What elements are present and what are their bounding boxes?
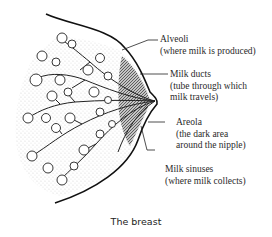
label-milk-ducts-desc: (tube through which: [170, 81, 247, 93]
label-areola: Areola (the dark area around the nipple): [176, 117, 246, 152]
label-areola-desc: (the dark area: [176, 129, 246, 141]
label-milk-ducts: Milk ducts (tube through which milk trav…: [170, 69, 247, 104]
label-areola-title: Areola: [176, 117, 246, 129]
label-milk-ducts-desc2: milk travels): [170, 92, 247, 104]
label-alveoli-title: Alveoli: [160, 34, 256, 46]
figure-caption: The breast: [0, 216, 272, 227]
label-milk-sinuses-desc: (where milk collects): [165, 176, 246, 188]
label-alveoli-desc: (where milk is produced): [160, 46, 256, 58]
label-milk-sinuses: Milk sinuses (where milk collects): [165, 164, 246, 187]
label-areola-desc2: around the nipple): [176, 140, 246, 152]
label-milk-sinuses-title: Milk sinuses: [165, 164, 246, 176]
label-alveoli: Alveoli (where milk is produced): [160, 34, 256, 57]
label-milk-ducts-title: Milk ducts: [170, 69, 247, 81]
